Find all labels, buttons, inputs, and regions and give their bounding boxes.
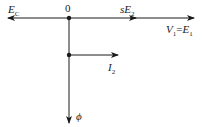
i2-label: I2: [108, 62, 115, 76]
v1-e1-label: V1=E1: [166, 24, 193, 38]
se2-label: sE2: [120, 4, 135, 18]
i2-origin-dot: [67, 53, 71, 57]
phasor-diagram: [0, 0, 204, 127]
origin-label: 0: [65, 3, 71, 14]
phi-label: ϕ: [76, 111, 82, 122]
ec-label: EC: [8, 4, 19, 18]
origin-dot: [67, 16, 71, 20]
